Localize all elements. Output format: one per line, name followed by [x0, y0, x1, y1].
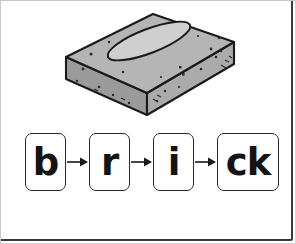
page-frame-bottom	[1, 239, 292, 241]
phoneme-box-0[interactable]: b	[25, 133, 66, 191]
phoneme-box-1[interactable]: r	[89, 133, 130, 191]
brick-illustration	[61, 9, 239, 121]
arrow-right-icon	[66, 155, 89, 169]
worksheet-page: b r i ck	[0, 0, 296, 244]
phoneme-label-3: ck	[226, 144, 271, 181]
arrow-right-icon	[130, 155, 153, 169]
phoneme-box-3[interactable]: ck	[217, 133, 279, 191]
phoneme-label-2: i	[168, 144, 180, 181]
phoneme-label-1: r	[101, 144, 118, 181]
phoneme-label-0: b	[33, 144, 59, 181]
phoneme-sequence: b r i ck	[25, 131, 275, 193]
page-frame-right	[291, 1, 293, 241]
phoneme-box-2[interactable]: i	[153, 133, 194, 191]
arrow-right-icon	[194, 155, 217, 169]
